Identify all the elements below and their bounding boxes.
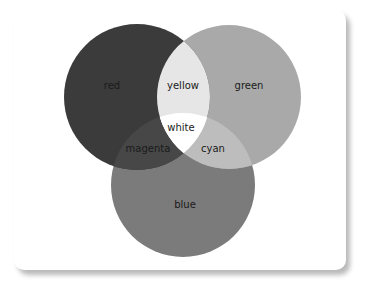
label-magenta: magenta bbox=[126, 143, 171, 154]
label-yellow: yellow bbox=[167, 80, 199, 91]
label-green: green bbox=[235, 80, 264, 91]
label-blue: blue bbox=[174, 199, 196, 210]
venn-diagram: red green blue yellow magenta cyan white bbox=[0, 0, 368, 290]
label-cyan: cyan bbox=[201, 143, 225, 154]
label-red: red bbox=[104, 80, 120, 91]
label-white: white bbox=[167, 122, 194, 133]
